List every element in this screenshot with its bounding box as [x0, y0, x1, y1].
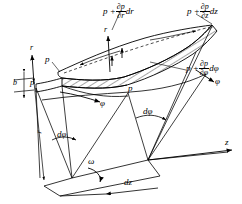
z-axis [148, 150, 232, 160]
formula-axial-differential: dz [210, 6, 218, 16]
dz-dimension [60, 188, 158, 196]
label-b: b [13, 79, 17, 87]
formula-tangential: p +∂p∂φdφ [186, 60, 219, 77]
formula-radial-differential: dr [126, 6, 134, 16]
label-p-left: p [30, 78, 35, 87]
omega-rotation-arrow [88, 168, 100, 182]
formula-tangential-lead: p + [186, 63, 199, 73]
formula-tangential-denominator: ∂φ [199, 69, 209, 77]
label-dphi-right: dφ [143, 107, 152, 116]
formula-tangential-differential: dφ [209, 63, 218, 73]
left-wedge-lines [36, 86, 128, 178]
label-r-mid-arrow: r [104, 26, 107, 34]
diagram-vector-layer [0, 0, 242, 204]
label-phi-right-arrow: φ [215, 77, 220, 86]
label-z-axis: z [225, 138, 229, 147]
formula-radial-denominator: ∂r [116, 12, 126, 20]
label-omega: ω [88, 157, 94, 166]
label-r-left-arrow: r [30, 44, 33, 52]
label-p-top-left: p [45, 55, 50, 64]
formula-axial-denominator: ∂z [200, 12, 210, 20]
formula-radial-lead: p + [103, 6, 116, 16]
label-phi-left-arrow: φ [100, 99, 105, 108]
formula-axial-lead: p + [187, 6, 200, 16]
formula-axial: p +∂p∂zdz [187, 3, 218, 20]
label-p-center: p [128, 84, 133, 93]
figure-canvas: p +∂p∂rdr p +∂p∂zdz p +∂p∂φdφ p p p b r … [0, 0, 242, 204]
label-dz: dz [124, 178, 132, 187]
label-dphi-left: dφ [57, 130, 66, 139]
formula-radial: p +∂p∂rdr [103, 3, 134, 20]
